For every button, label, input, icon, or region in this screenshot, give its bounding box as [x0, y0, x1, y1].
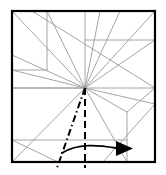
origami-crease-pattern-figure — [0, 0, 166, 175]
